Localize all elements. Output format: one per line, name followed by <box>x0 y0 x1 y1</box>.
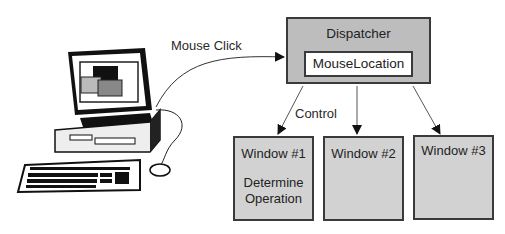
dispatcher-title: Dispatcher <box>288 26 429 41</box>
mouse-click-arrow <box>156 57 284 107</box>
window-3-box: Window #3 <box>413 135 494 220</box>
window-3-title: Window #3 <box>415 143 492 158</box>
window-1-title: Window #1 <box>235 146 312 161</box>
mouse-click-label: Mouse Click <box>171 38 242 53</box>
window-1-body-line2: Operation <box>235 191 312 207</box>
mouselocation-box: MouseLocation <box>304 51 413 77</box>
computer-icon <box>18 48 182 192</box>
window-2-box: Window #2 <box>323 136 404 221</box>
arrow-to-window-3 <box>413 86 440 134</box>
dispatcher-box: Dispatcher MouseLocation <box>286 17 431 84</box>
window-1-body: Determine Operation <box>235 175 312 207</box>
control-label: Control <box>295 106 337 121</box>
window-1-box: Window #1 Determine Operation <box>233 136 314 221</box>
window-2-title: Window #2 <box>325 146 402 161</box>
window-1-body-line1: Determine <box>235 175 312 191</box>
